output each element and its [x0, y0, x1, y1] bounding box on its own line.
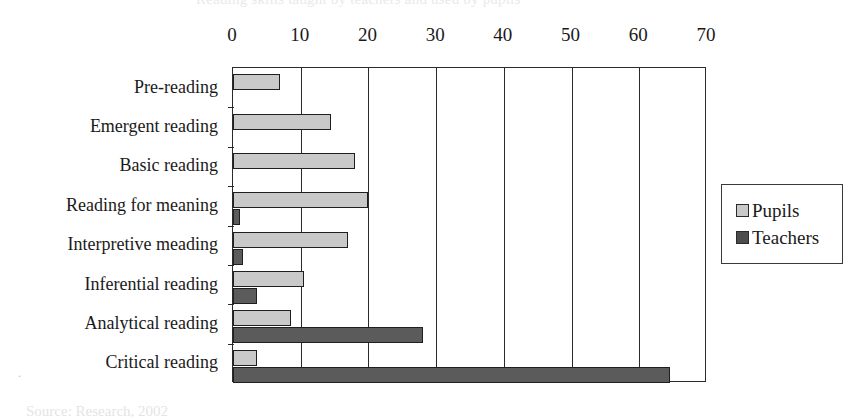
legend-swatch-teachers-icon: [736, 231, 749, 244]
legend-label-teachers: Teachers: [752, 227, 819, 248]
bar-pupils-inferential-reading: [233, 271, 304, 287]
bar-teachers-reading-for-meaning: [233, 209, 240, 225]
y-tickmark-4: [228, 226, 234, 227]
legend-label-pupils: Pupils: [752, 200, 800, 221]
bar-pupils-critical-reading: [233, 350, 257, 366]
y-tick-label-critical-reading: Critical reading: [106, 352, 218, 373]
x-tick-label-70: 70: [697, 24, 716, 46]
bar-pupils-pre-reading: [233, 74, 280, 90]
y-tick-label-emergent-reading: Emergent reading: [90, 116, 218, 137]
bar-pupils-analytical-reading: [233, 310, 291, 326]
stray-mark: .: [18, 366, 21, 381]
y-tickmark-5: [228, 265, 234, 266]
x-tick-label-10: 10: [290, 24, 309, 46]
bar-teachers-critical-reading: [233, 367, 670, 383]
y-tick-label-basic-reading: Basic reading: [120, 155, 218, 176]
y-tick-label-pre-reading: Pre-reading: [134, 76, 218, 97]
legend-swatch-pupils-icon: [736, 204, 749, 217]
y-tickmark-3: [228, 186, 234, 187]
y-tickmark-2: [228, 147, 234, 148]
bar-pupils-emergent-reading: [233, 114, 331, 130]
x-tick-label-30: 30: [426, 24, 445, 46]
gridline-60: [639, 68, 640, 381]
bar-pupils-reading-for-meaning: [233, 192, 368, 208]
legend-item-pupils: Pupils: [736, 197, 842, 224]
source-note: Source: Research, 2002: [26, 403, 168, 420]
bar-pupils-basic-reading: [233, 153, 355, 169]
x-tick-label-50: 50: [561, 24, 580, 46]
plot-area: [232, 67, 706, 382]
bar-teachers-inferential-reading: [233, 288, 257, 304]
x-axis-tick-labels: 010203040506070: [232, 24, 706, 48]
x-tick-label-0: 0: [227, 24, 237, 46]
y-axis-category-labels: Pre-readingEmergent readingBasic reading…: [0, 67, 226, 382]
x-tick-label-60: 60: [629, 24, 648, 46]
bar-teachers-analytical-reading: [233, 327, 423, 343]
bar-teachers-interpretive-meading: [233, 249, 243, 265]
chart-legend: Pupils Teachers: [721, 184, 843, 264]
y-tickmark-1: [228, 107, 234, 108]
clipped-caption: Reading skills taught by teachers and us…: [196, 0, 656, 8]
x-tick-label-20: 20: [358, 24, 377, 46]
gridline-30: [436, 68, 437, 381]
y-tick-label-reading-for-meaning: Reading for meaning: [66, 194, 218, 215]
y-tick-label-inferential-reading: Inferential reading: [85, 273, 218, 294]
y-tickmark-6: [228, 304, 234, 305]
x-tick-label-40: 40: [493, 24, 512, 46]
y-tick-label-interpretive-meading: Interpretive meading: [68, 234, 218, 255]
bar-pupils-interpretive-meading: [233, 232, 348, 248]
y-tick-label-analytical-reading: Analytical reading: [85, 312, 218, 333]
y-tickmark-7: [228, 344, 234, 345]
gridline-40: [504, 68, 505, 381]
legend-item-teachers: Teachers: [736, 224, 842, 251]
gridline-50: [572, 68, 573, 381]
